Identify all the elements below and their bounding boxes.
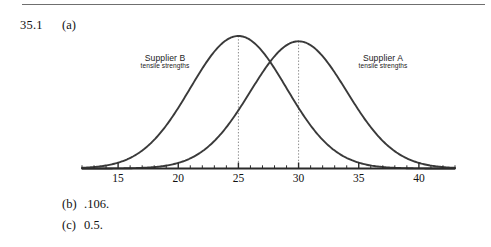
curve-annotation-supplier-b-subtitle: tensile strengths xyxy=(122,63,208,70)
answer-c-value: 0.5. xyxy=(84,218,103,232)
answer-line-b: (b).106. xyxy=(62,197,109,212)
x-axis-tick-label: 35 xyxy=(344,172,374,184)
curve-annotation-supplier-b: Supplier B tensile strengths xyxy=(122,54,208,70)
answer-b-value: .106. xyxy=(84,197,109,211)
x-axis-tick-label: 25 xyxy=(223,172,253,184)
guide-lines xyxy=(238,36,298,169)
normal-curves-plot xyxy=(0,0,491,190)
x-axis-tick-label: 30 xyxy=(284,172,314,184)
curve-annotation-supplier-a-subtitle: tensile strengths xyxy=(340,63,426,70)
x-axis-tick-label: 20 xyxy=(163,172,193,184)
answer-page: 35.1 (a) Supplier B tensile strengths Su… xyxy=(0,0,491,247)
answer-b-label: (b) xyxy=(62,197,84,212)
answer-line-c: (c)0.5. xyxy=(62,218,103,233)
curve-annotation-supplier-a: Supplier A tensile strengths xyxy=(340,54,426,70)
distribution-figure: Supplier B tensile strengths Supplier A … xyxy=(0,0,491,190)
answer-c-label: (c) xyxy=(62,218,84,233)
x-axis-tick-label: 40 xyxy=(404,172,434,184)
x-axis-tick-label: 15 xyxy=(103,172,133,184)
